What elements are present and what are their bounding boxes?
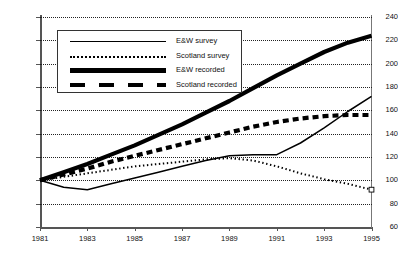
series-end-marker [369, 187, 374, 192]
legend-swatch-icon [70, 56, 166, 62]
legend-item: Scotland survey [58, 49, 241, 64]
legend-item: E&W recorded [58, 63, 241, 78]
legend-item-label: Scotland recorded [176, 80, 237, 90]
legend-swatch-icon [70, 68, 166, 73]
legend-swatch-icon [70, 41, 166, 46]
legend: E&W surveyScotland surveyE&W recordedSco… [57, 30, 242, 93]
series-line [40, 115, 372, 180]
legend-item: E&W survey [58, 34, 241, 49]
legend-swatch-icon [70, 83, 166, 88]
legend-item-label: E&W survey [176, 36, 217, 46]
legend-item-label: Scotland survey [176, 51, 229, 61]
legend-item-label: E&W recorded [176, 65, 225, 75]
legend-item: Scotland recorded [58, 78, 241, 93]
line-chart: 6080100120140160180200220240 19811983198… [0, 0, 398, 256]
